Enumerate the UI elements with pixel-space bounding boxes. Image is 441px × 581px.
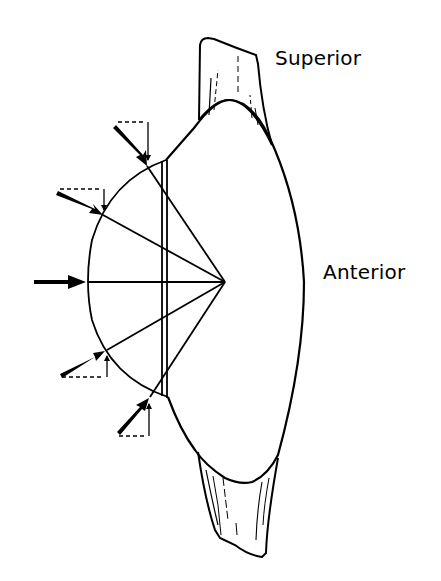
lens-force-diagram: Superior Anterior <box>0 0 441 581</box>
lens-body <box>166 100 304 483</box>
force-arrow-lower-1 <box>117 398 149 436</box>
label-anterior: Anterior <box>323 260 405 284</box>
label-superior: Superior <box>275 46 361 70</box>
force-arrow-upper-2 <box>56 189 104 215</box>
force-arc <box>88 160 168 397</box>
converging-rays <box>88 166 225 397</box>
diagram-canvas <box>0 0 441 581</box>
force-arrow-center <box>34 275 86 289</box>
superior-tendon <box>199 38 272 145</box>
force-arrow-upper-1 <box>113 122 148 166</box>
force-arrow-lower-2 <box>60 351 107 378</box>
